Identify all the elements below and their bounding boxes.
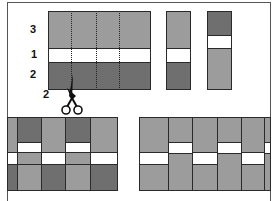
scissors-icon xyxy=(60,74,84,116)
cut-strip-b xyxy=(207,11,232,90)
label-band-2: 2 xyxy=(30,69,36,80)
panel-outline xyxy=(139,117,271,191)
label-band-3: 3 xyxy=(30,24,36,35)
strip-outline xyxy=(207,11,232,90)
label-cut-width: 2 xyxy=(43,89,49,100)
panel-outline xyxy=(7,117,118,191)
frame-top-border xyxy=(7,2,271,3)
assembled-panel-single-tone xyxy=(139,117,271,191)
assembled-panel-two-tone xyxy=(7,117,118,191)
cut-strip-a xyxy=(166,11,191,90)
label-band-1: 1 xyxy=(31,49,37,60)
strip-outline xyxy=(166,11,191,90)
